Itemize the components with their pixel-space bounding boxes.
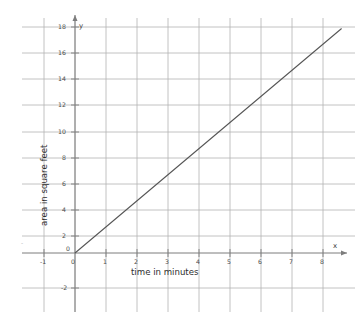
x-tick-label-3: 3 (165, 259, 169, 265)
y-axis-title: area in square feet (40, 145, 49, 226)
y-tick-label-4: 4 (62, 207, 66, 213)
x-tick-label-6: 6 (258, 259, 262, 265)
y-tick-label-10: 10 (58, 129, 66, 135)
y-tick-label-2: 2 (62, 233, 66, 239)
x-tick-label-0: 0 (71, 259, 75, 265)
x-tick-label-1: 1 (103, 259, 107, 265)
y-tick-label-12: 12 (58, 102, 66, 108)
x-tick-label-8: 8 (320, 259, 324, 265)
y-tick-label-16: 16 (58, 50, 66, 56)
x-axis-title: time in minutes (131, 268, 199, 277)
y-tick-label-6: 6 (62, 181, 66, 187)
graph-canvas: 18 16 14 12 10 8 6 4 2 0 -2 -1 0 1 2 3 4… (0, 0, 357, 314)
y-axis-variable-label: y (79, 23, 83, 30)
y-tick-label-18: 18 (58, 24, 66, 30)
y-tick-label-0: 0 (66, 246, 70, 252)
x-tick-label-5: 5 (227, 259, 231, 265)
y-tick-label-14: 14 (58, 76, 66, 82)
y-tick-label--2: -2 (61, 285, 67, 291)
x-axis-variable-label: x (333, 243, 337, 250)
x-tick-label-4: 4 (196, 259, 200, 265)
stray-tick-mark: - (21, 240, 23, 246)
y-tick-label-8: 8 (62, 155, 66, 161)
x-tick-label--1: -1 (40, 259, 46, 265)
x-tick-label-7: 7 (289, 259, 293, 265)
x-tick-label-2: 2 (134, 259, 138, 265)
